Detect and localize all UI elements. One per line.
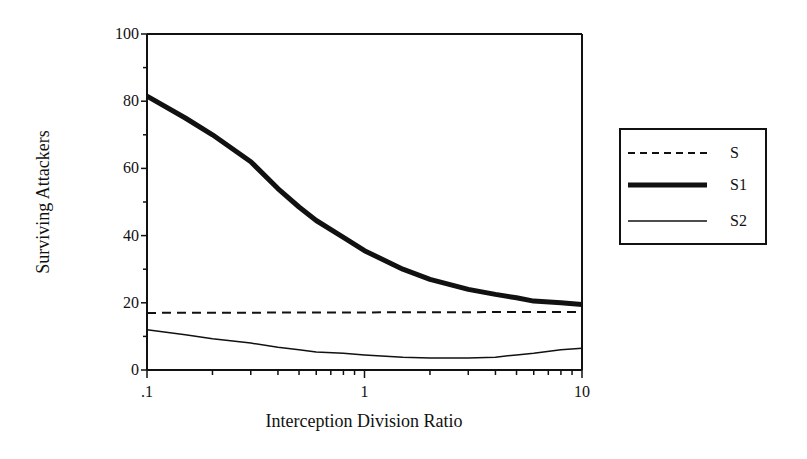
series-s2-line (147, 330, 582, 358)
legend-label-s: S (730, 144, 739, 161)
x-tick-label: 10 (574, 383, 590, 400)
y-tick-label: 40 (123, 227, 139, 244)
y-tick-label: 60 (123, 159, 139, 176)
y-tick-label: 100 (115, 25, 139, 42)
y-tick-label: 0 (131, 361, 139, 378)
chart: 020406080100.1110 SS1S2 Interception Div… (0, 0, 807, 459)
y-tick-label: 20 (123, 294, 139, 311)
legend-label-s2: S2 (730, 212, 747, 229)
legend: SS1S2 (620, 129, 766, 244)
y-tick-label: 80 (123, 92, 139, 109)
x-tick-label: .1 (141, 383, 153, 400)
x-axis-title: Interception Division Ratio (266, 411, 463, 431)
series-s1-line (147, 96, 582, 304)
series-s-line (147, 312, 582, 313)
axes: 020406080100.1110 (115, 25, 590, 400)
y-axis-title: Surviving Attackers (33, 130, 53, 273)
x-tick-label: 1 (361, 383, 369, 400)
legend-label-s1: S1 (730, 176, 747, 193)
series-lines (147, 96, 582, 358)
